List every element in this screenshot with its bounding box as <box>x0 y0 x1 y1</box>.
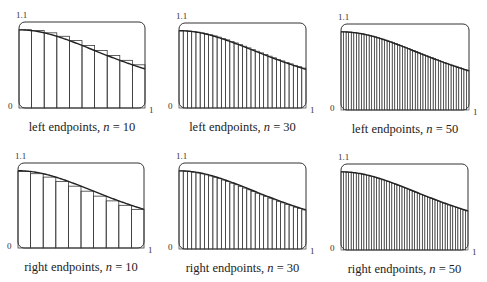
riemann-rectangle <box>425 197 428 250</box>
riemann-rectangle <box>382 180 385 250</box>
riemann-rectangle <box>440 202 443 250</box>
plot-area <box>0 0 487 282</box>
riemann-rectangle <box>371 177 374 250</box>
riemann-rectangle <box>399 186 402 250</box>
riemann-rectangle <box>379 179 382 250</box>
riemann-rectangle <box>412 191 415 250</box>
riemann-rectangle <box>374 178 377 250</box>
riemann-rectangle <box>460 209 463 250</box>
riemann-rectangle <box>354 173 357 250</box>
riemann-rectangle <box>443 203 446 250</box>
riemann-rectangle <box>450 206 453 250</box>
riemann-rectangle <box>432 199 435 250</box>
riemann-rectangle <box>448 205 451 250</box>
panel-caption: right endpoints, n = 50 <box>335 263 475 276</box>
riemann-rectangle <box>392 184 395 250</box>
riemann-rectangle <box>438 201 441 250</box>
riemann-rectangle <box>377 178 380 250</box>
riemann-rectangle <box>359 174 362 250</box>
riemann-rectangle <box>405 188 408 250</box>
riemann-rectangle <box>361 174 364 250</box>
caption-text: right endpoints, <box>348 262 430 276</box>
riemann-rectangle <box>420 195 423 250</box>
riemann-rectangle <box>463 210 466 250</box>
riemann-rectangle <box>346 172 349 250</box>
riemann-rectangle <box>366 175 369 250</box>
riemann-rectangle <box>402 187 405 250</box>
riemann-rectangle <box>435 200 438 250</box>
riemann-rectangle <box>427 198 430 250</box>
riemann-rectangle <box>349 172 352 250</box>
riemann-rectangle <box>422 196 425 250</box>
riemann-rectangle <box>407 189 410 250</box>
riemann-rectangle <box>410 190 413 250</box>
riemann-rectangle <box>389 183 392 250</box>
riemann-rectangle <box>369 176 372 250</box>
riemann-rectangle <box>384 181 387 250</box>
caption-value: = 50 <box>436 262 462 276</box>
riemann-rectangle <box>453 207 456 250</box>
riemann-rectangle <box>364 175 367 250</box>
riemann-rectangle <box>344 172 347 250</box>
riemann-rectangle <box>351 173 354 250</box>
riemann-rectangle <box>445 204 448 250</box>
riemann-rectangle <box>417 194 420 250</box>
riemann-rectangles <box>341 172 468 250</box>
riemann-rectangle <box>455 208 458 250</box>
riemann-rectangle <box>430 199 433 250</box>
riemann-rectangle <box>415 193 418 250</box>
riemann-rectangle <box>394 184 397 250</box>
riemann-rectangle <box>356 173 359 250</box>
riemann-rectangle <box>397 185 400 250</box>
riemann-rectangle <box>387 182 390 250</box>
riemann-rectangle <box>458 208 461 250</box>
